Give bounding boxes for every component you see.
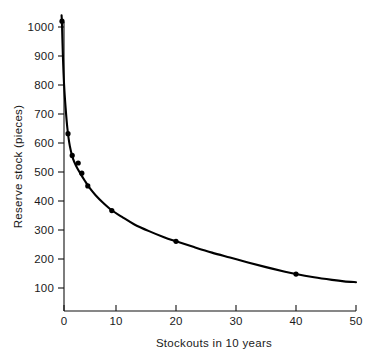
y-tick-label: 700 bbox=[34, 108, 54, 120]
data-point bbox=[173, 239, 178, 244]
axes-group bbox=[64, 22, 356, 311]
x-tick-label: 40 bbox=[289, 315, 302, 327]
x-tick-label: 10 bbox=[109, 315, 122, 327]
data-point bbox=[85, 183, 90, 188]
data-point bbox=[59, 19, 64, 24]
y-axis-tick-labels: 1002003004005006007008009001000 bbox=[28, 21, 54, 294]
y-axis-title: Reserve stock (pieces) bbox=[12, 105, 24, 229]
data-point bbox=[70, 153, 75, 158]
data-point bbox=[79, 171, 84, 176]
data-points-group bbox=[59, 19, 298, 277]
data-point bbox=[293, 271, 298, 276]
y-tick-label: 300 bbox=[34, 224, 54, 236]
y-tick-label: 900 bbox=[34, 50, 54, 62]
y-tick-label: 400 bbox=[34, 195, 54, 207]
y-tick-label: 500 bbox=[34, 166, 54, 178]
reserve-stock-line-chart: 1002003004005006007008009001000 01020304… bbox=[0, 0, 373, 361]
data-point bbox=[76, 160, 81, 165]
x-tick-label: 30 bbox=[229, 315, 242, 327]
x-tick-label: 50 bbox=[349, 315, 362, 327]
x-axis-ticks bbox=[64, 305, 356, 311]
x-axis-title: Stockouts in 10 years bbox=[156, 337, 272, 349]
x-tick-label: 20 bbox=[169, 315, 182, 327]
y-tick-label: 800 bbox=[34, 79, 54, 91]
chart-figure: 1002003004005006007008009001000 01020304… bbox=[0, 0, 373, 361]
y-tick-label: 1000 bbox=[28, 21, 54, 33]
x-tick-label: 0 bbox=[61, 315, 68, 327]
y-tick-label: 600 bbox=[34, 137, 54, 149]
data-point bbox=[65, 131, 70, 136]
data-point bbox=[109, 208, 114, 213]
y-tick-label: 200 bbox=[34, 253, 54, 265]
data-curve bbox=[62, 15, 356, 282]
y-tick-label: 100 bbox=[34, 282, 54, 294]
x-axis-tick-labels: 01020304050 bbox=[61, 315, 363, 327]
